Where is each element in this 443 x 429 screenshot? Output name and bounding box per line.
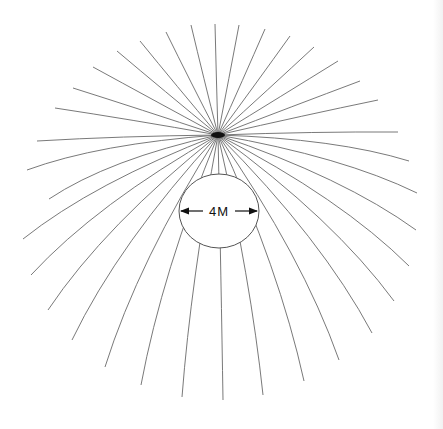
convergence-point: [211, 132, 225, 138]
field-line: [37, 135, 218, 141]
field-line: [93, 67, 218, 135]
field-line: [218, 29, 265, 135]
field-line: [166, 32, 218, 135]
field-line: [117, 51, 218, 135]
field-line: [218, 100, 378, 135]
field-line: [218, 36, 290, 135]
field-line: [218, 61, 338, 135]
field-line: [218, 135, 304, 381]
field-line: [218, 135, 417, 193]
field-line: [141, 135, 218, 385]
field-line-diagram: 4M: [0, 0, 443, 429]
field-line: [218, 135, 409, 161]
diameter-label: 4M: [209, 204, 229, 219]
field-line: [218, 132, 398, 135]
field-line: [215, 24, 218, 135]
field-line: [105, 135, 218, 367]
page-edge-shadow: [433, 0, 443, 429]
